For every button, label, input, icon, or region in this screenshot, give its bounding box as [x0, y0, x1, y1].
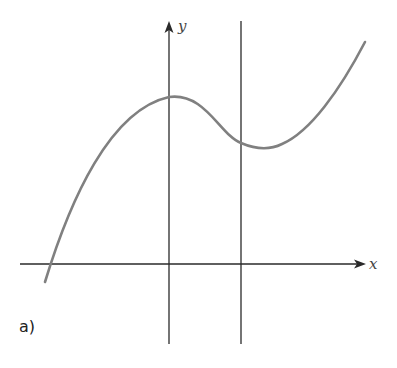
function-curve — [45, 42, 365, 282]
panel-label: a) — [19, 317, 35, 336]
function-graph: y x a) — [0, 0, 397, 368]
x-axis-label: x — [369, 255, 378, 273]
y-axis-label: y — [177, 17, 187, 35]
